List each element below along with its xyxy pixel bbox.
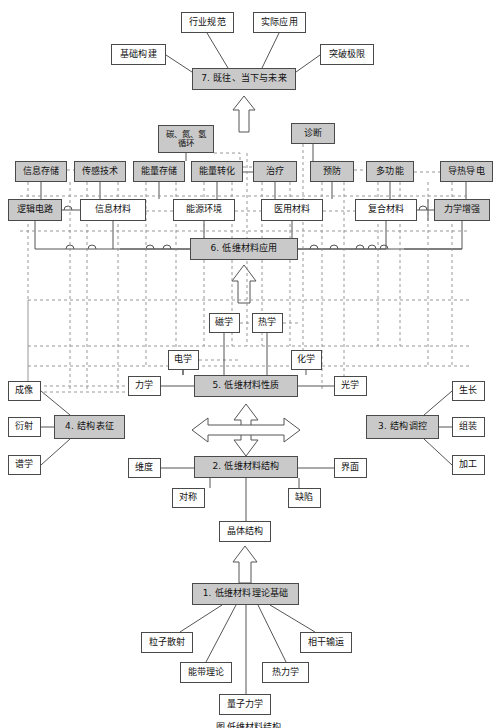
- node-label: 粒子散射: [149, 638, 186, 647]
- node-label: 缺陷: [295, 493, 313, 502]
- node-yiyongcailiao[interactable]: 医用材料: [261, 199, 323, 221]
- node-chengxiang[interactable]: 成像: [8, 381, 41, 401]
- node-jingtijiegou[interactable]: 晶体结构: [219, 521, 271, 542]
- node-label: 导热导电: [448, 167, 485, 176]
- links-section-7: [166, 33, 320, 72]
- node-luojidianlu[interactable]: 逻辑电路: [8, 199, 62, 221]
- node-label: 多功能: [376, 167, 404, 176]
- node-label: 治疗: [266, 167, 284, 176]
- node-guangxue[interactable]: 光学: [334, 376, 367, 396]
- node-label: 加工: [459, 460, 477, 469]
- node-label: 碳、氮、氢循环: [166, 130, 207, 149]
- node-jiagong[interactable]: 加工: [452, 455, 485, 475]
- node-label: 医用材料: [274, 205, 311, 214]
- node-weidu[interactable]: 维度: [128, 458, 161, 478]
- node-rexue[interactable]: 热学: [252, 313, 283, 333]
- node-label: 对称: [179, 493, 197, 502]
- node-zhiliao[interactable]: 治疗: [253, 161, 297, 182]
- node-lixue[interactable]: 力学: [128, 376, 161, 396]
- node-yufang[interactable]: 预防: [310, 161, 354, 182]
- node-section-2[interactable]: 2. 低维材料结构: [194, 456, 298, 478]
- node-label: 7. 既往、当下与未来: [201, 74, 287, 83]
- node-xiangganshuyun[interactable]: 相干输运: [300, 632, 352, 653]
- node-label: 信息材料: [95, 205, 132, 214]
- node-nengliangcunchu[interactable]: 能量存储: [133, 161, 185, 182]
- node-duogongneng[interactable]: 多功能: [366, 161, 414, 182]
- node-label: 磁学: [215, 318, 233, 327]
- node-label: 谱学: [15, 460, 33, 469]
- node-cixue[interactable]: 磁学: [209, 313, 240, 333]
- node-ganganjishu[interactable]: 传感技术: [74, 161, 126, 182]
- node-label: 1. 低维材料理论基础: [203, 589, 289, 598]
- node-nengyuanhuanjing[interactable]: 能源环境: [173, 199, 235, 221]
- node-section-5[interactable]: 5. 低维材料性质: [194, 375, 298, 397]
- node-lizisanshe[interactable]: 粒子散射: [141, 632, 193, 653]
- node-label: 信息存储: [23, 167, 60, 176]
- node-label: 复合材料: [368, 205, 405, 214]
- node-label: 生长: [459, 386, 477, 395]
- node-hangyeguifan[interactable]: 行业规范: [181, 12, 234, 33]
- arrow-s6-to-s7: [233, 96, 255, 132]
- node-jiemian[interactable]: 界面: [334, 458, 367, 478]
- node-xinxicunchu[interactable]: 信息存储: [15, 161, 67, 182]
- node-section-7[interactable]: 7. 既往、当下与未来: [192, 68, 296, 90]
- node-label: 基础构建: [120, 50, 157, 59]
- node-label: 能量存储: [141, 167, 178, 176]
- node-label: 4. 结构表征: [65, 422, 114, 431]
- node-fuhecailiao[interactable]: 复合材料: [355, 199, 417, 221]
- node-label: 2. 低维材料结构: [212, 462, 279, 471]
- node-label: 诊断: [304, 129, 322, 138]
- links-section-6-solid: [35, 144, 466, 249]
- node-label: 电学: [174, 355, 192, 364]
- node-puxue[interactable]: 谱学: [8, 455, 41, 475]
- node-section-4[interactable]: 4. 结构表征: [54, 415, 125, 439]
- node-label: 组装: [459, 422, 477, 431]
- node-tupojixian[interactable]: 突破极限: [320, 44, 374, 65]
- node-label: 衍射: [15, 422, 33, 431]
- node-dianxue[interactable]: 电学: [168, 350, 199, 370]
- node-label: 3. 结构调控: [378, 422, 427, 431]
- node-nengdaililun[interactable]: 能带理论: [180, 662, 232, 683]
- node-relixue[interactable]: 热力学: [262, 662, 309, 683]
- arrow-s1-to-s2: [233, 546, 257, 583]
- node-label: 逻辑电路: [17, 205, 54, 214]
- node-daoredaodian[interactable]: 导热导电: [440, 161, 493, 182]
- node-label: 实际应用: [261, 18, 298, 27]
- node-label: 能带理论: [188, 668, 225, 677]
- node-label: 6. 低维材料应用: [210, 244, 277, 253]
- node-label: 5. 低维材料性质: [212, 381, 279, 390]
- node-huaxue[interactable]: 化学: [291, 350, 322, 370]
- connector-layer: .sl{stroke:#555;stroke-width:1;fill:none…: [0, 0, 497, 728]
- node-section-3[interactable]: 3. 结构调控: [366, 415, 439, 439]
- node-zuzhuang[interactable]: 组装: [452, 417, 485, 437]
- node-label: 力学: [135, 381, 153, 390]
- node-jichugoujian[interactable]: 基础构建: [111, 44, 166, 65]
- node-section-6[interactable]: 6. 低维材料应用: [190, 238, 298, 260]
- node-lixuezengqiang[interactable]: 力学增强: [434, 199, 490, 221]
- node-label: 能源环境: [186, 205, 223, 214]
- arrow-s5-to-s6: [232, 265, 256, 303]
- node-duichen[interactable]: 对称: [172, 488, 205, 508]
- node-section-1[interactable]: 1. 低维材料理论基础: [192, 583, 299, 605]
- node-label: 传感技术: [82, 167, 119, 176]
- node-quexian[interactable]: 缺陷: [288, 488, 321, 508]
- node-label: 界面: [341, 463, 359, 472]
- node-label: 晶体结构: [227, 527, 264, 536]
- node-shengzhang[interactable]: 生长: [452, 381, 485, 401]
- node-xinxicailiao[interactable]: 信息材料: [80, 199, 146, 221]
- node-label: 维度: [135, 463, 153, 472]
- node-label: 光学: [341, 381, 359, 390]
- node-label: 量子力学: [227, 700, 264, 709]
- node-nengliangzhuanhua[interactable]: 能量转化: [191, 161, 243, 182]
- node-yanshe[interactable]: 衍射: [8, 417, 41, 437]
- node-label: 力学增强: [444, 205, 481, 214]
- node-label: 成像: [15, 386, 33, 395]
- figure-canvas: .sl{stroke:#555;stroke-width:1;fill:none…: [0, 0, 497, 728]
- node-liangzilixue[interactable]: 量子力学: [219, 694, 271, 715]
- figure-caption: 图 低维材料结构: [0, 720, 497, 728]
- node-label: 能量转化: [199, 167, 236, 176]
- node-tandanqing-xunhuan[interactable]: 碳、氮、氢循环: [158, 125, 214, 153]
- node-label: 突破极限: [329, 50, 366, 59]
- node-zhenduan[interactable]: 诊断: [291, 123, 335, 144]
- node-shijiyingyong[interactable]: 实际应用: [253, 12, 306, 33]
